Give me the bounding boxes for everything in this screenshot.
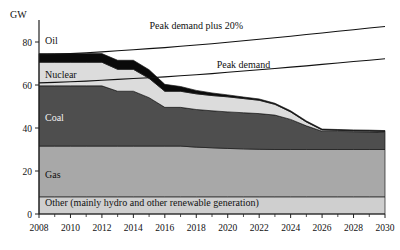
x-tick-label: 2026	[313, 223, 332, 233]
x-tick-label: 2024	[281, 223, 300, 233]
energy-capacity-stacked-area-chart: 0204060802008201020122014201620182020202…	[0, 0, 400, 250]
x-tick-label: 2022	[250, 223, 269, 233]
x-tick-label: 2028	[344, 223, 363, 233]
y-tick-label: 40	[23, 124, 33, 134]
y-axis-title: GW	[10, 9, 27, 20]
y-tick-label: 80	[23, 38, 33, 48]
series-label-gas: Gas	[45, 169, 61, 180]
series-label-coal: Coal	[45, 112, 64, 123]
x-tick-label: 2030	[376, 223, 395, 233]
x-tick-label: 2020	[218, 223, 237, 233]
area-series-gas	[39, 146, 385, 197]
x-tick-label: 2018	[187, 223, 206, 233]
x-tick-label: 2016	[155, 223, 174, 233]
series-label-nuclear: Nuclear	[45, 69, 77, 80]
x-tick-label: 2008	[30, 223, 49, 233]
x-tick-label: 2014	[124, 223, 143, 233]
series-label-other: Other (mainly hydro and other renewable …	[45, 197, 259, 209]
chart-container: 0204060802008201020122014201620182020202…	[0, 0, 400, 250]
series-label-oil: Oil	[45, 35, 58, 46]
y-tick-label: 0	[27, 210, 32, 220]
stacked-area-group	[39, 54, 385, 214]
y-tick-label: 20	[23, 167, 33, 177]
x-tick-label: 2010	[61, 223, 80, 233]
x-tick-label: 2012	[92, 223, 111, 233]
annotation-peak-demand-plus-20-: Peak demand plus 20%	[149, 20, 243, 31]
annotation-peak-demand: Peak demand	[217, 59, 271, 70]
y-tick-label: 60	[23, 81, 33, 91]
